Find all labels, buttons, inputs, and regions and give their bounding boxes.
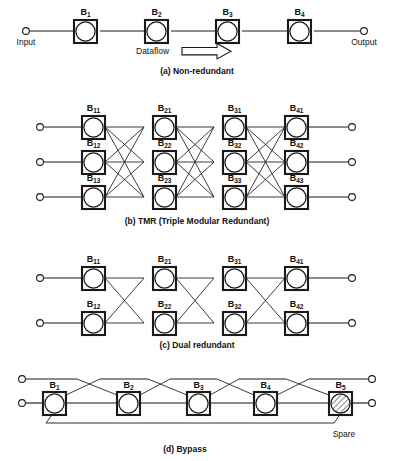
bypass-input-terminal-upper <box>19 376 26 383</box>
block-b-13 <box>82 186 105 209</box>
figure-root: Input Output B1 B2 B3 B4 <box>0 0 395 461</box>
block-label-d-5: B5 <box>335 380 346 391</box>
tmr-output-terminal-3 <box>349 194 356 201</box>
block-a-2 <box>145 20 168 43</box>
dual-output-terminal-2 <box>349 320 356 327</box>
block-d-2 <box>117 392 140 415</box>
block-label-c-21: B21 <box>158 254 172 265</box>
panel-tmr: B11 B21 B31 B41 B12 B22 B32 B42 B13 B23 <box>37 103 356 226</box>
block-label-c-11: B11 <box>87 254 101 265</box>
bypass-output-terminal-upper <box>369 376 376 383</box>
dual-input-terminal-1 <box>37 275 44 282</box>
bypass-input-terminal-lower <box>19 400 26 407</box>
dual-output-terminal-1 <box>349 275 356 282</box>
block-b-42 <box>285 151 308 174</box>
block-label-c-31: B31 <box>228 254 242 265</box>
redundancy-architectures-diagram: Input Output B1 B2 B3 B4 <box>0 0 395 461</box>
block-label-d-1: B1 <box>49 380 60 391</box>
panel-dual-redundant: B11 B21 B31 B41 B12 B22 B32 B42 (c) Dual… <box>37 254 356 350</box>
block-c-42 <box>285 312 308 335</box>
panel-non-redundant: Input Output B1 B2 B3 B4 <box>17 7 378 76</box>
bypass-output-terminal-lower <box>369 400 376 407</box>
caption-c: (c) Dual redundant <box>159 340 234 350</box>
block-label-b-11: B11 <box>87 103 101 114</box>
block-a-1 <box>74 20 97 43</box>
block-label-c-32: B32 <box>228 299 242 310</box>
block-d-3 <box>187 392 210 415</box>
tmr-output-terminal-2 <box>349 159 356 166</box>
tmr-interconnects <box>105 127 285 197</box>
block-label-a-3: B3 <box>222 7 233 18</box>
dual-input-terminal-2 <box>37 320 44 327</box>
block-b-22 <box>153 151 176 174</box>
block-c-21 <box>153 267 176 290</box>
block-b-43 <box>285 186 308 209</box>
panel-bypass: B1 B2 B3 B4 B5 Spare (d) Bypass <box>19 376 376 454</box>
block-c-22 <box>153 312 176 335</box>
block-b-41 <box>285 116 308 139</box>
block-label-c-22: B22 <box>158 299 172 310</box>
block-label-b-21: B21 <box>158 103 172 114</box>
block-a-4 <box>288 20 311 43</box>
block-d-1 <box>43 392 66 415</box>
block-label-c-41: B41 <box>290 254 304 265</box>
tmr-output-terminal-1 <box>349 124 356 131</box>
block-label-b-41: B41 <box>290 103 304 114</box>
tmr-input-terminal-1 <box>37 124 44 131</box>
block-b-31 <box>223 116 246 139</box>
block-c-31 <box>223 267 246 290</box>
input-label: Input <box>17 37 37 47</box>
caption-a: (a) Non-redundant <box>160 66 234 76</box>
block-label-c-12: B12 <box>87 299 101 310</box>
block-label-d-4: B4 <box>260 380 271 391</box>
tmr-input-terminal-3 <box>37 194 44 201</box>
block-c-32 <box>223 312 246 335</box>
block-b-23 <box>153 186 176 209</box>
block-label-a-1: B1 <box>80 7 91 18</box>
caption-d: (d) Bypass <box>163 444 207 454</box>
dual-interconnects <box>105 278 285 323</box>
dataflow-arrow-icon <box>182 44 231 59</box>
spare-label: Spare <box>333 429 356 439</box>
input-terminal-a <box>23 28 30 35</box>
block-label-a-4: B4 <box>294 7 305 18</box>
caption-b: (b) TMR (Triple Modular Redundant) <box>125 216 270 226</box>
block-d-5-spare <box>329 392 352 415</box>
block-label-a-2: B2 <box>151 7 162 18</box>
block-b-21 <box>153 116 176 139</box>
block-label-d-2: B2 <box>123 380 134 391</box>
block-label-b-31: B31 <box>228 103 242 114</box>
output-label: Output <box>351 37 377 47</box>
block-c-12 <box>82 312 105 335</box>
block-d-4 <box>254 392 277 415</box>
tmr-input-terminal-2 <box>37 159 44 166</box>
output-terminal-a <box>361 28 368 35</box>
block-a-3 <box>216 20 239 43</box>
block-label-d-3: B3 <box>193 380 204 391</box>
block-label-c-42: B42 <box>290 299 304 310</box>
block-b-33 <box>223 186 246 209</box>
block-b-11 <box>82 116 105 139</box>
block-b-32 <box>223 151 246 174</box>
block-b-12 <box>82 151 105 174</box>
block-c-11 <box>82 267 105 290</box>
block-c-41 <box>285 267 308 290</box>
dataflow-label: Dataflow <box>136 46 170 56</box>
